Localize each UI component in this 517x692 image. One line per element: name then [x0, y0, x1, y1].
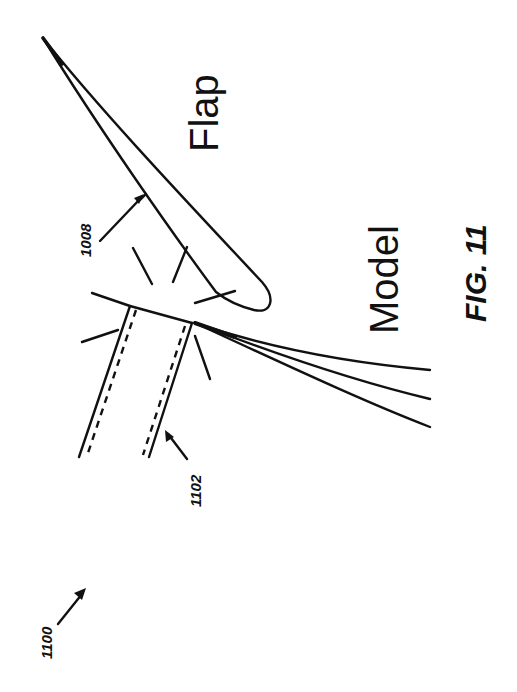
left-wall: [79, 306, 136, 457]
ref-1102: 1102: [187, 474, 204, 507]
ref-1100: 1100: [38, 626, 55, 659]
model-label: Model: [362, 225, 406, 334]
ref-1008: 1008: [77, 223, 94, 257]
patent-figure-11: Flap Model FIG. 11 1008 1102 1100: [0, 0, 517, 692]
figure-title: FIG. 11: [459, 224, 492, 322]
leader-1008: [100, 194, 144, 241]
flap-airfoil: [43, 38, 270, 311]
model-edge: [92, 293, 192, 323]
arrow-1100: [58, 588, 86, 624]
leader-1102: [165, 430, 187, 459]
streamlines: [195, 323, 430, 427]
flap-label: Flap: [182, 74, 226, 152]
